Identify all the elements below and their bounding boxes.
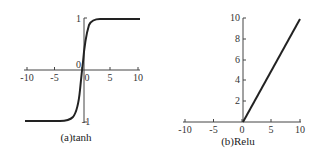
relu-xtick-label: 5 bbox=[269, 124, 274, 135]
tanh-xtick-label: 0 bbox=[85, 72, 90, 83]
relu-ytick-label: 6 bbox=[235, 54, 240, 65]
tanh-xtick-label: 5 bbox=[108, 72, 113, 83]
relu-ytick-label: 10 bbox=[230, 12, 240, 23]
tanh-xtick-label: -5 bbox=[50, 72, 58, 83]
relu-xtick-label: 10 bbox=[295, 124, 305, 135]
relu-curve bbox=[243, 19, 300, 122]
relu-xtick-label: 0 bbox=[240, 124, 245, 135]
tanh-xtick-label: -10 bbox=[20, 72, 33, 83]
tanh-panel: -10 -5 0 5 10 1 0 -1 (a)tanh bbox=[20, 13, 143, 144]
tanh-xtick-label: 10 bbox=[133, 72, 143, 83]
relu-ytick-label: 2 bbox=[235, 95, 240, 106]
tanh-ytick-label: 0 bbox=[76, 59, 81, 70]
relu-ytick-label: 4 bbox=[235, 74, 240, 85]
relu-caption: (b)Relu bbox=[221, 135, 255, 148]
tanh-ytick-label: -1 bbox=[82, 116, 90, 127]
relu-panel: -10 -5 0 5 10 2 4 6 8 10 (b)Relu bbox=[178, 12, 305, 148]
relu-ytick-label: 8 bbox=[235, 33, 240, 44]
relu-xtick-label: -5 bbox=[209, 124, 217, 135]
relu-xtick-label: -10 bbox=[178, 124, 191, 135]
tanh-caption: (a)tanh bbox=[60, 131, 92, 144]
tanh-ytick-label: 1 bbox=[76, 13, 81, 24]
figure: -10 -5 0 5 10 1 0 -1 (a)tanh bbox=[0, 0, 322, 153]
